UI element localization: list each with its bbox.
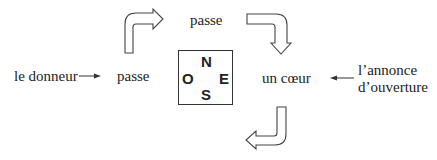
opening-bid-label-line2: d’ouverture <box>358 79 428 95</box>
compass-south: S <box>201 87 211 102</box>
opening-bid-arrow-icon <box>133 0 354 81</box>
dealer-label: le donneur <box>14 68 78 84</box>
opening-bid-label-line1: l’annonce <box>358 62 417 78</box>
turn-right-arrow-icon <box>125 9 163 53</box>
compass-table: N O E S <box>178 50 233 105</box>
compass-east: E <box>219 71 229 86</box>
east-call-label: un cœur <box>262 70 311 86</box>
compass-north: N <box>201 54 212 69</box>
compass-west: O <box>182 71 194 86</box>
north-call-label: passe <box>190 12 223 28</box>
west-call-label: passe <box>117 68 150 84</box>
turn-left-arrow-icon <box>246 107 286 149</box>
dealer-arrow-icon <box>79 74 101 79</box>
turn-down-arrow-icon <box>247 14 291 54</box>
